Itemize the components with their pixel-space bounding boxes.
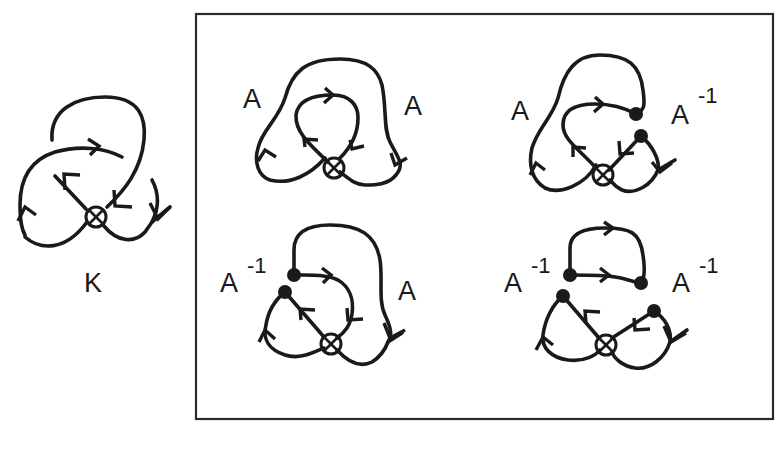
state-label-left: A (511, 96, 529, 126)
virtual-crossing-icon (324, 158, 344, 178)
smoothing-dot-icons (278, 268, 301, 299)
state-label-left-sup: -1 (247, 253, 267, 278)
state-label-right: A (672, 268, 690, 298)
state-bottom-right: A -1 A -1 (504, 222, 719, 368)
state-label-right: A (671, 100, 689, 130)
knot-k: K (18, 97, 170, 298)
orientation-arrow-icons (530, 97, 672, 175)
knot-label: K (84, 268, 102, 298)
state-label-right-sup: -1 (698, 83, 718, 108)
virtual-crossing-icon (86, 207, 106, 227)
smoothing-dot-icons (629, 107, 648, 143)
virtual-crossing-icon (596, 335, 616, 355)
states-frame (196, 14, 773, 419)
state-top-left: A A (243, 59, 422, 185)
state-label-right: A (398, 276, 416, 306)
state-label-right-sup: -1 (699, 253, 719, 278)
state-label-left-sup: -1 (531, 253, 551, 278)
orientation-arrow-icons (536, 222, 686, 350)
virtual-crossing-icon (593, 165, 613, 185)
virtual-crossing-icon (321, 334, 341, 354)
state-label-left: A (243, 84, 261, 114)
state-label-left: A (220, 268, 238, 298)
knot-states-diagram: K A A (0, 0, 783, 450)
state-top-right: A A -1 (511, 55, 718, 191)
state-label-left: A (504, 268, 522, 298)
state-label-right: A (404, 91, 422, 121)
state-bottom-left: A -1 A (220, 225, 416, 364)
